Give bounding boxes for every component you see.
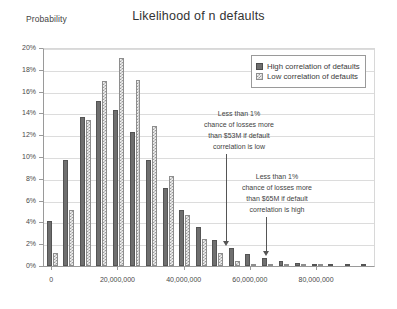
bar-high-6 <box>146 160 151 266</box>
bar-low-16 <box>318 264 323 266</box>
legend-label-high: High correlation of defaults <box>267 62 360 71</box>
bar-high-13 <box>262 258 267 266</box>
bar-high-8 <box>179 210 184 266</box>
y-axis-tick-label: 8% <box>12 175 36 182</box>
bar-high-14 <box>279 261 284 266</box>
bar-high-17 <box>328 264 333 266</box>
bar-low-12 <box>251 264 256 266</box>
y-axis-tick-label: 12% <box>12 131 36 138</box>
annotation-high-line-4: correlation is high <box>222 204 332 215</box>
x-axis-tick-label: 20,000,000 <box>87 276 147 283</box>
bar-low-11 <box>235 261 240 266</box>
bar-high-2 <box>80 117 85 266</box>
annotation-high-line-3: than $65M if default <box>222 193 332 204</box>
legend-swatch-high-icon <box>256 63 263 70</box>
x-axis-tick-mark <box>250 266 251 270</box>
x-axis-tick-mark <box>184 266 185 270</box>
bar-low-5 <box>136 80 141 266</box>
y-axis-tick-label: 20% <box>12 44 36 51</box>
y-axis-tick-label: 0% <box>12 262 36 269</box>
gridline <box>44 158 374 159</box>
gridline <box>44 223 374 224</box>
x-axis-tick-label: 60,000,000 <box>220 276 280 283</box>
bar-low-13 <box>268 264 273 266</box>
bar-high-5 <box>130 132 135 266</box>
chart-figure: Probability Likelihood of n defaults Los… <box>0 0 397 309</box>
annotation-low-correlation: Less than 1% chance of losses more than … <box>184 108 294 152</box>
legend-swatch-low-icon <box>256 73 263 80</box>
bar-high-3 <box>96 101 101 266</box>
gridline <box>44 93 374 94</box>
annotation-low-line-2: chance of losses more <box>184 119 294 130</box>
bar-low-7 <box>169 176 174 266</box>
bar-low-4 <box>119 58 124 266</box>
y-axis-tick-label: 6% <box>12 197 36 204</box>
bar-high-9 <box>196 227 201 266</box>
x-axis-tick-label: 40,000,000 <box>154 276 214 283</box>
annotation-high-correlation: Less than 1% chance of losses more than … <box>222 171 332 215</box>
annotation-low-line-3: than $53M if default <box>184 130 294 141</box>
bar-low-6 <box>152 126 157 266</box>
legend-item-high[interactable]: High correlation of defaults <box>256 62 360 71</box>
bar-high-11 <box>229 248 234 266</box>
bar-high-10 <box>212 240 217 266</box>
bar-low-1 <box>69 210 74 266</box>
chart-legend: High correlation of defaults Low correla… <box>251 55 366 88</box>
y-axis-tick-label: 4% <box>12 218 36 225</box>
bar-low-9 <box>202 239 207 266</box>
bar-low-0 <box>53 253 58 266</box>
x-axis-tick-mark <box>117 266 118 270</box>
bar-high-12 <box>245 254 250 266</box>
bar-high-1 <box>63 160 68 266</box>
bar-high-19 <box>361 264 366 266</box>
y-axis-tick-label: 18% <box>12 66 36 73</box>
bar-high-0 <box>47 221 52 266</box>
bar-low-2 <box>86 120 91 266</box>
annotation-low-line-4: correlation is low <box>184 141 294 152</box>
bar-high-4 <box>113 110 118 266</box>
x-axis-tick-label: 0 <box>21 276 81 283</box>
y-axis-tick-label: 2% <box>12 240 36 247</box>
gridline <box>44 49 374 50</box>
y-axis-tick-label: 10% <box>12 153 36 160</box>
annotation-high-line-2: chance of losses more <box>222 182 332 193</box>
legend-item-low[interactable]: Low correlation of defaults <box>256 72 360 81</box>
annotation-high-line-1: Less than 1% <box>222 171 332 182</box>
bar-high-18 <box>345 264 350 266</box>
x-axis-tick-mark <box>51 266 52 270</box>
bar-low-14 <box>284 264 289 266</box>
x-axis-tick-label: 80,000,000 <box>286 276 346 283</box>
annotation-low-line-1: Less than 1% <box>184 108 294 119</box>
y-axis-tick-label: 14% <box>12 109 36 116</box>
gridline <box>44 245 374 246</box>
bar-low-3 <box>102 81 107 266</box>
chart-title: Likelihood of n defaults <box>0 9 397 23</box>
x-axis-tick-mark <box>316 266 317 270</box>
bar-high-7 <box>163 188 168 266</box>
bar-low-8 <box>185 215 190 266</box>
bar-high-15 <box>295 263 300 266</box>
bar-low-15 <box>301 264 306 266</box>
y-axis-tick-label: 16% <box>12 88 36 95</box>
legend-label-low: Low correlation of defaults <box>267 72 358 81</box>
bar-low-10 <box>218 253 223 266</box>
